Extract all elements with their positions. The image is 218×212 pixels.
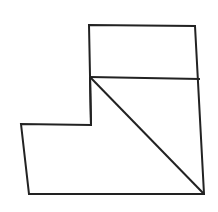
diagonal-line (90, 77, 204, 194)
horizontal-divider-line (90, 77, 200, 79)
inner-vertical-line (90, 77, 91, 125)
l-shape-outline (21, 25, 204, 194)
geometry-diagram (0, 0, 218, 212)
inner-lines (90, 77, 204, 194)
